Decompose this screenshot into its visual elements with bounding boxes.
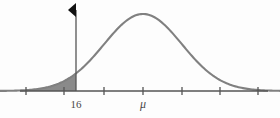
left-pointing-triangle-marker [68,3,76,17]
normal-distribution-figure: 16 μ [0,0,280,118]
mean-symbol-label: μ [123,98,163,110]
bell-curve-line [0,14,280,91]
threshold-value-label: 16 [56,99,96,110]
